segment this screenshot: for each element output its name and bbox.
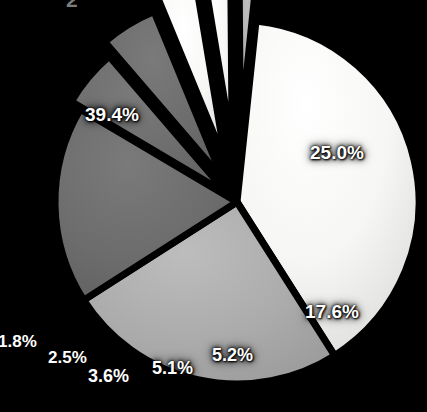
pie-slice-label: 1.8% <box>0 332 37 352</box>
pie-slice-label: 3.6% <box>88 366 129 387</box>
pie-slice-label: 25.0% <box>310 142 364 164</box>
pie-slice-label: 5.2% <box>212 345 253 366</box>
pie-slice-label: 5.1% <box>152 358 193 379</box>
chart-canvas: 2 39.4%25.0%17.6%5.2%5.1%3.6%2.5%1.8% <box>0 0 427 412</box>
pie-slice-label: 2.5% <box>48 348 87 368</box>
page-number: 2 <box>66 0 78 10</box>
pie-slice-label: 17.6% <box>305 301 359 323</box>
pie-slice-label: 39.4% <box>85 104 139 126</box>
pie-slices <box>55 0 419 384</box>
